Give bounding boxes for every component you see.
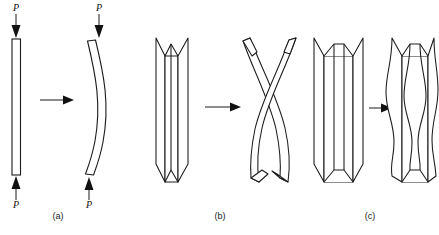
buckling-modes-figure: P P P P (a) (b) (c) xyxy=(0,0,439,235)
load-label-bottom-straight: P xyxy=(9,199,23,210)
caption-panel-b: (b) xyxy=(200,211,240,221)
caption-panel-c: (c) xyxy=(350,211,390,221)
straight-channel-section-c xyxy=(314,38,363,182)
load-label-top-straight: P xyxy=(9,2,23,13)
load-label-top-buckled: P xyxy=(92,2,106,13)
locally-buckled-channel-section xyxy=(386,38,438,182)
twisted-channel-section xyxy=(243,38,296,182)
load-arrow-bottom-buckled xyxy=(85,177,94,200)
load-arrow-top-buckled xyxy=(95,14,104,38)
straight-column xyxy=(12,39,21,175)
straight-channel-section-b xyxy=(156,38,188,182)
load-arrow-top-straight xyxy=(12,14,21,38)
figure-canvas xyxy=(0,0,439,235)
buckled-column xyxy=(86,40,107,175)
transition-arrow-a xyxy=(40,96,74,105)
load-arrow-bottom-straight xyxy=(12,176,21,200)
caption-panel-a: (a) xyxy=(38,211,78,221)
transition-arrow-b xyxy=(205,103,241,112)
load-label-bottom-buckled: P xyxy=(82,199,96,210)
